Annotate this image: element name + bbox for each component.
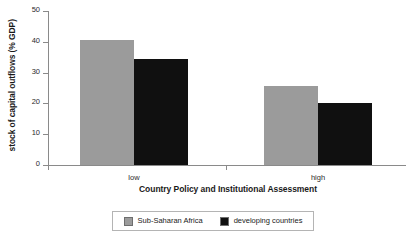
y-axis-title: stock of capital outflows (% GDP) (8, 5, 17, 165)
y-axis-tick: 20 (43, 103, 48, 104)
y-axis-tick: 30 (43, 73, 48, 74)
y-axis-tick-label: 50 (32, 6, 40, 14)
y-axis-tick-label: 10 (32, 129, 40, 137)
bar (264, 86, 318, 165)
y-axis-tick: 10 (43, 134, 48, 135)
y-axis-tick: 40 (43, 42, 48, 43)
legend-swatch-icon (220, 217, 229, 226)
legend-entry[interactable]: developing countries (220, 217, 303, 226)
x-axis-category-label: high (288, 174, 348, 182)
legend-label: Sub-Saharan Africa (138, 217, 203, 225)
x-axis-line (48, 165, 406, 166)
plot-area: 01020304050lowhigh (48, 11, 408, 165)
y-axis-tick-label: 0 (36, 160, 40, 168)
bar (318, 103, 372, 165)
x-axis-category-label: low (104, 174, 164, 182)
y-axis-tick-label: 40 (32, 37, 40, 45)
x-axis-origin-tick (48, 166, 49, 170)
y-axis-line (48, 11, 49, 166)
bar-chart-figure: stock of capital outflows (% GDP) 010203… (0, 0, 416, 240)
x-axis-tick (226, 166, 227, 170)
legend-label: developing countries (234, 217, 303, 225)
x-axis-title: Country Policy and Institutional Assessm… (48, 185, 408, 194)
bar (134, 59, 188, 165)
y-axis-tick: 50 (43, 11, 48, 12)
bar (80, 40, 134, 165)
legend-swatch-icon (124, 217, 133, 226)
y-axis-tick-label: 20 (32, 98, 40, 106)
chart-legend: Sub-Saharan Africadeveloping countries (112, 211, 314, 231)
y-axis-tick-label: 30 (32, 68, 40, 76)
legend-entry[interactable]: Sub-Saharan Africa (124, 217, 203, 226)
